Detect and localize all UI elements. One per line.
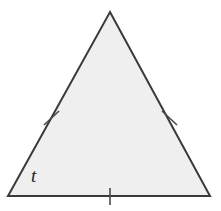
angle-label-t: t	[31, 166, 36, 185]
geometry-figure-canvas: t	[0, 0, 221, 211]
triangle-shape	[8, 12, 210, 196]
